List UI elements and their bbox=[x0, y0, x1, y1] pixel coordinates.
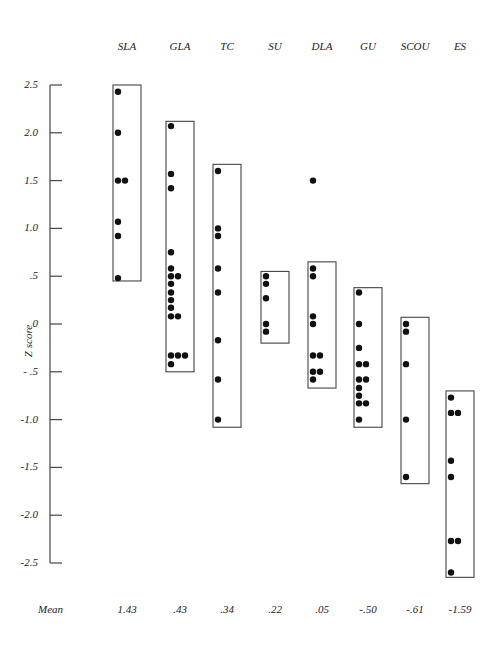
data-point bbox=[356, 361, 362, 367]
data-point bbox=[115, 130, 121, 136]
data-point bbox=[356, 385, 362, 391]
data-point bbox=[175, 273, 181, 279]
plot-area bbox=[0, 0, 499, 648]
data-point bbox=[215, 289, 221, 295]
data-point bbox=[448, 410, 454, 416]
data-point bbox=[317, 352, 323, 358]
mean-value: .05 bbox=[315, 603, 329, 615]
data-point bbox=[310, 369, 316, 375]
mean-row-label: Mean bbox=[38, 603, 63, 615]
data-point bbox=[403, 361, 409, 367]
data-point bbox=[182, 352, 188, 358]
data-point bbox=[403, 321, 409, 327]
data-point bbox=[175, 313, 181, 319]
data-point bbox=[310, 352, 316, 358]
data-point bbox=[363, 361, 369, 367]
data-point bbox=[215, 233, 221, 239]
data-point bbox=[215, 225, 221, 231]
data-point bbox=[356, 400, 362, 406]
data-point bbox=[115, 275, 121, 281]
mean-value: -.61 bbox=[406, 603, 423, 615]
data-point bbox=[317, 369, 323, 375]
range-box bbox=[166, 121, 194, 371]
data-point bbox=[363, 400, 369, 406]
data-point bbox=[263, 295, 269, 301]
data-point bbox=[215, 265, 221, 271]
data-point bbox=[168, 185, 174, 191]
data-point bbox=[356, 345, 362, 351]
data-point bbox=[356, 393, 362, 399]
data-point bbox=[168, 123, 174, 129]
data-point bbox=[356, 376, 362, 382]
mean-value: -.50 bbox=[359, 603, 376, 615]
data-point bbox=[448, 569, 454, 575]
data-point bbox=[356, 416, 362, 422]
data-point bbox=[168, 352, 174, 358]
data-point bbox=[175, 352, 181, 358]
data-point bbox=[263, 328, 269, 334]
data-point bbox=[215, 416, 221, 422]
data-point bbox=[115, 88, 121, 94]
data-point bbox=[168, 249, 174, 255]
data-point bbox=[448, 458, 454, 464]
data-point bbox=[168, 273, 174, 279]
range-box bbox=[213, 164, 241, 427]
data-point bbox=[448, 394, 454, 400]
data-point bbox=[310, 313, 316, 319]
data-point bbox=[363, 376, 369, 382]
mean-value: .34 bbox=[220, 603, 234, 615]
data-point bbox=[310, 273, 316, 279]
mean-value: .22 bbox=[268, 603, 282, 615]
data-point bbox=[356, 321, 362, 327]
mean-value: .43 bbox=[173, 603, 187, 615]
data-point bbox=[448, 538, 454, 544]
data-point bbox=[115, 219, 121, 225]
data-point bbox=[215, 376, 221, 382]
data-point bbox=[310, 265, 316, 271]
data-point bbox=[455, 410, 461, 416]
data-point bbox=[403, 474, 409, 480]
data-point bbox=[455, 538, 461, 544]
data-point bbox=[115, 177, 121, 183]
data-point bbox=[168, 289, 174, 295]
data-point bbox=[403, 416, 409, 422]
data-point bbox=[310, 177, 316, 183]
data-point bbox=[168, 297, 174, 303]
data-point bbox=[168, 265, 174, 271]
data-point bbox=[168, 361, 174, 367]
data-point bbox=[356, 289, 362, 295]
data-point bbox=[215, 168, 221, 174]
data-point bbox=[310, 376, 316, 382]
data-point bbox=[263, 321, 269, 327]
data-point bbox=[115, 233, 121, 239]
data-point bbox=[448, 474, 454, 480]
mean-value: -1.59 bbox=[449, 603, 472, 615]
data-point bbox=[168, 313, 174, 319]
data-point bbox=[263, 273, 269, 279]
data-point bbox=[168, 171, 174, 177]
mean-value: 1.43 bbox=[117, 603, 136, 615]
data-point bbox=[215, 337, 221, 343]
data-point bbox=[403, 328, 409, 334]
data-point bbox=[168, 305, 174, 311]
data-point bbox=[122, 177, 128, 183]
data-point bbox=[168, 281, 174, 287]
range-box bbox=[446, 391, 474, 577]
data-point bbox=[310, 321, 316, 327]
data-point bbox=[263, 281, 269, 287]
range-box bbox=[401, 317, 429, 483]
